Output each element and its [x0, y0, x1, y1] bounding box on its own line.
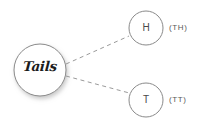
leaf-node-heads-label: H — [128, 22, 164, 33]
outcome-label-th: (TH) — [169, 23, 187, 32]
root-node-label: Tails — [12, 58, 67, 74]
branch-line-heads — [66, 36, 129, 64]
leaf-node-tails-label: T — [128, 94, 164, 105]
probability-tree-diagram: Tails H T (TH) (TT) — [0, 0, 202, 126]
outcome-label-tt: (TT) — [169, 95, 187, 104]
branch-line-tails — [66, 76, 133, 94]
